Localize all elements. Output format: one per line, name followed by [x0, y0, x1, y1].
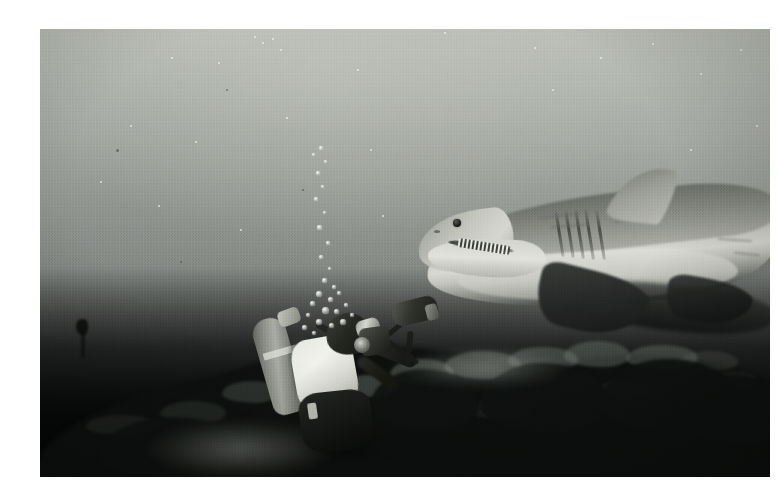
- photo-border-label: White photographic border: [0, 0, 1, 1]
- photo-vignette: [40, 29, 770, 477]
- photograph: Great white shark Scuba diver with under…: [40, 29, 770, 477]
- screenshot-canvas: Great white shark Scuba diver with under…: [0, 0, 782, 503]
